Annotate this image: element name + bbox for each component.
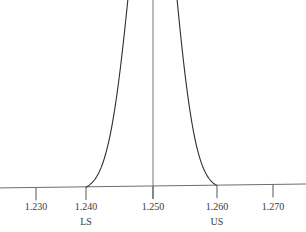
x-tick-label: 1.270 — [262, 201, 285, 212]
spec-limit-label-ls: LS — [80, 216, 92, 227]
normal-distribution-chart: 1.2301.2401.2501.2601.270 LSUS — [0, 0, 306, 232]
x-tick-label: 1.240 — [75, 201, 98, 212]
x-tick-label: 1.260 — [206, 201, 229, 212]
x-tick-label: 1.250 — [142, 201, 165, 212]
x-tick-label: 1.230 — [25, 201, 48, 212]
spec-limit-label-us: US — [211, 216, 224, 227]
distribution-curve — [86, 0, 217, 187]
